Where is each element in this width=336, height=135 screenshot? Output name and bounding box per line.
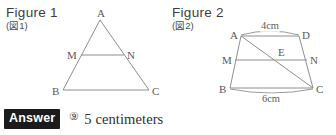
figure-2-measure-AD-arc xyxy=(241,31,299,35)
figure-2-caption: Figure 2 (図2) xyxy=(172,6,224,31)
answer-row: Answer ⑨ 5 centimeters xyxy=(4,108,163,130)
figure-2-point-label-d: D xyxy=(302,30,310,41)
figure-1-point-label-b: B xyxy=(52,86,59,97)
figure-2-measure-AD: 4cm xyxy=(260,21,280,32)
figure-1-side-AC xyxy=(100,20,149,90)
figure-2-measure-BC: 6cm xyxy=(261,94,281,105)
figure-2-point-label-b: B xyxy=(219,84,226,95)
figure-1-point-label-c: C xyxy=(152,86,159,97)
answer-value: 5 centimeters xyxy=(84,112,163,127)
answer-item-marker: ⑨ xyxy=(69,111,79,122)
figure-1-point-label-n: N xyxy=(127,50,135,61)
figure-1-title: Figure 1 xyxy=(6,6,58,20)
figure-2-title: Figure 2 xyxy=(172,6,224,20)
figure-2-point-label-a: A xyxy=(230,30,238,41)
figure-2-subtitle: (図2) xyxy=(172,21,224,31)
figure-2-point-label-n: N xyxy=(310,55,318,66)
figure-2-geometry xyxy=(230,31,313,93)
figure-1-caption: Figure 1 (図1) xyxy=(6,6,58,31)
figure-2-diagonal-AC xyxy=(241,36,313,88)
figure-2-point-label-c: C xyxy=(316,84,323,95)
figure-1-point-label-m: M xyxy=(67,50,77,61)
figure-1-subtitle: (図1) xyxy=(6,21,58,31)
figure-2-point-label-m: M xyxy=(222,55,232,66)
answer-badge: Answer xyxy=(4,109,60,128)
figure-2-point-label-e: E xyxy=(278,47,285,58)
figure-1-point-label-a: A xyxy=(97,8,105,19)
